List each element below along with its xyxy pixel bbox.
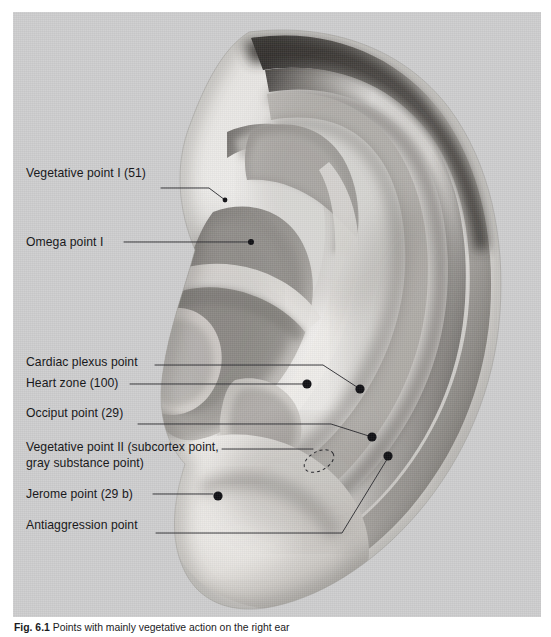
label-vegetative-point-1: Vegetative point I (51) (26, 166, 146, 182)
label-jerome-point: Jerome point (29 b) (26, 487, 133, 503)
figure-caption-number: Fig. 6.1 (14, 622, 50, 633)
label-occiput-point: Occiput point (29) (26, 406, 123, 422)
label-vegetative-point-2: Vegetative point II (subcortex point, gr… (26, 440, 234, 471)
label-cardiac-plexus: Cardiac plexus point (26, 355, 138, 371)
label-antiaggression: Antiaggression point (26, 518, 138, 534)
label-omega-point-1: Omega point I (26, 235, 103, 251)
figure-caption-text: Points with mainly vegetative action on … (53, 622, 290, 633)
figure-root: Vegetative point I (51) Omega point I Ca… (0, 0, 551, 637)
figure-caption: Fig. 6.1 Points with mainly vegetative a… (14, 622, 534, 634)
label-heart-zone: Heart zone (100) (26, 376, 118, 392)
